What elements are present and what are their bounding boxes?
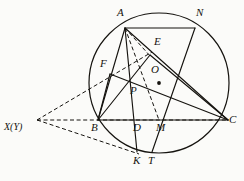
geometry-canvas bbox=[0, 0, 244, 181]
segment-A-C bbox=[125, 28, 228, 120]
point-label-K: K bbox=[133, 155, 140, 166]
dashed-X-K bbox=[37, 120, 139, 154]
point-label-C: C bbox=[229, 114, 236, 125]
segment-F-C bbox=[110, 74, 228, 120]
point-label-E: E bbox=[154, 36, 161, 47]
point-label-D: D bbox=[133, 122, 141, 133]
solid-segments-group bbox=[98, 28, 228, 152]
circle-center-dot bbox=[157, 81, 161, 85]
point-label-P: P bbox=[130, 85, 137, 96]
point-label-B: B bbox=[91, 122, 98, 133]
dashed-A-E bbox=[125, 28, 151, 57]
geometry-figure: A N E O F P B D M C K T X(Y) bbox=[0, 0, 244, 181]
point-label-N: N bbox=[196, 7, 203, 18]
point-label-T: T bbox=[148, 155, 154, 166]
segment-E-C bbox=[150, 55, 228, 120]
point-label-M: M bbox=[156, 122, 165, 133]
point-label-O: O bbox=[151, 64, 159, 75]
point-label-F: F bbox=[100, 58, 107, 69]
point-label-X-Y: X(Y) bbox=[4, 122, 22, 132]
point-label-A: A bbox=[117, 7, 124, 18]
